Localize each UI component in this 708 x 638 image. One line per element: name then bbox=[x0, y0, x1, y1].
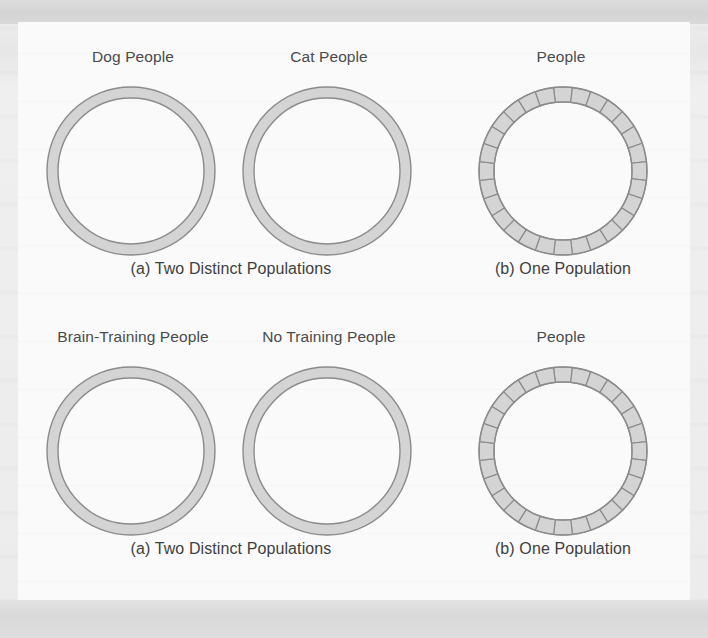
ring-label-people-row2: People bbox=[466, 328, 656, 346]
ring-segment bbox=[479, 442, 494, 461]
figure-row-1: Dog People Cat People People (a) Two Dis… bbox=[18, 22, 690, 311]
ring-label-brain-training-people: Brain-Training People bbox=[28, 328, 238, 346]
caption-two-distinct-populations-row2: (a) Two Distinct Populations bbox=[56, 540, 406, 558]
plain-ring-no-training-people bbox=[234, 358, 420, 544]
segmented-ring-people-row1 bbox=[470, 78, 656, 264]
ring-segment bbox=[479, 162, 494, 181]
ring-label-no-training-people: No Training People bbox=[234, 328, 424, 346]
ring-segment bbox=[632, 442, 647, 461]
scan-shadow-band-bottom bbox=[0, 600, 708, 638]
ring-segment bbox=[554, 520, 573, 535]
plain-ring-dog-people bbox=[38, 78, 224, 264]
figure-row-2: Brain-Training People No Training People… bbox=[18, 302, 690, 591]
ring-segment bbox=[554, 367, 573, 382]
plain-ring-cat-people bbox=[234, 78, 420, 264]
caption-one-population-row1: (b) One Population bbox=[463, 260, 663, 278]
segmented-ring-people-row2 bbox=[470, 358, 656, 544]
ring-label-people-row1: People bbox=[466, 48, 656, 66]
ring-label-cat-people: Cat People bbox=[234, 48, 424, 66]
plain-ring-brain-training-people bbox=[38, 358, 224, 544]
caption-one-population-row2: (b) One Population bbox=[463, 540, 663, 558]
ring-segment bbox=[632, 162, 647, 181]
ring-segment bbox=[554, 240, 573, 255]
ring-segment bbox=[554, 87, 573, 102]
scan-shadow-band-top bbox=[0, 0, 708, 24]
ring-label-dog-people: Dog People bbox=[38, 48, 228, 66]
figure-panel: Dog People Cat People People (a) Two Dis… bbox=[18, 22, 690, 600]
caption-two-distinct-populations-row1: (a) Two Distinct Populations bbox=[56, 260, 406, 278]
